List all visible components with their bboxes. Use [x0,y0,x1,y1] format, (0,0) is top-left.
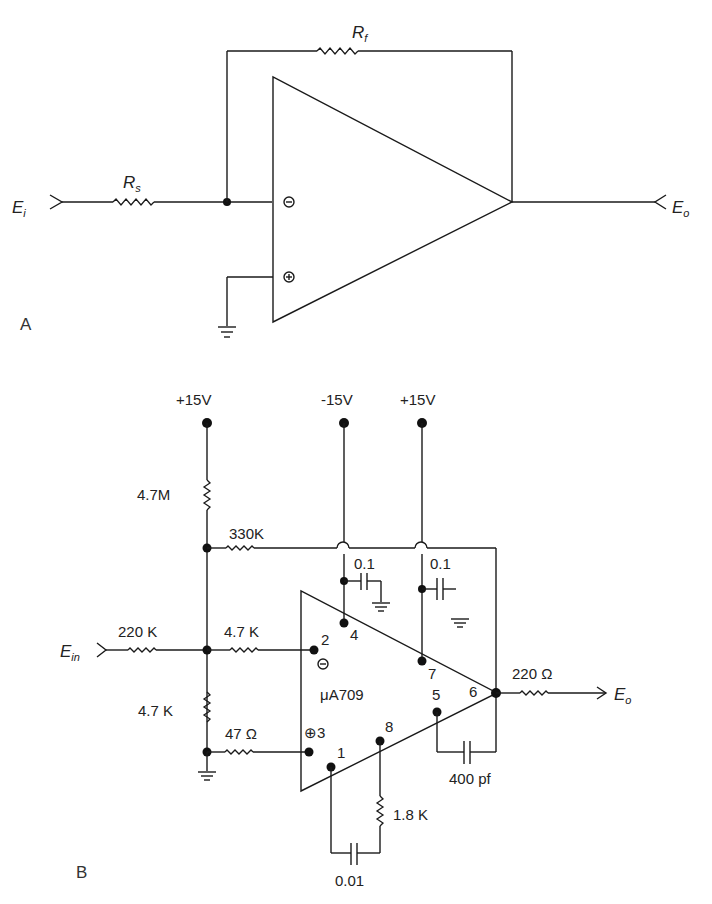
input-arrow-icon [97,643,106,657]
pin4-dot [340,619,349,628]
r-1-8k-label: 1.8 K [393,806,428,823]
pin3-dot [305,748,314,757]
pin6-label: 6 [469,683,477,700]
rf-label: Rf [352,23,368,44]
r-4-7k-shunt-label: 4.7 K [138,702,173,719]
figure-b: +15V -15V +15V 4.7M 330K [60,391,631,889]
resistor-1-8k [377,796,383,826]
supply-neg-label: -15V [321,391,353,408]
pin2-label: 2 [321,631,329,648]
ground-icon [451,619,469,627]
input-label-ein: Ein [60,642,80,663]
pin7-label: 7 [428,665,436,682]
pin8-label: 8 [385,718,393,735]
ground-icon [198,772,216,780]
output-label-eo: Eo [672,198,689,219]
input-arrow-icon [50,195,62,209]
c-pos-label: 0.1 [430,555,451,572]
resistor-4-7m [204,480,210,510]
circuit-diagram: Ei Eo Rs Rf A +15V -15V +15V 4.7M 330K [0,0,712,904]
resistor-rf [317,48,358,54]
r-330k-label: 330K [229,525,264,542]
pin7-dot [418,657,427,666]
pin1-label: 1 [337,744,345,761]
pin2-dot [310,646,319,655]
supply-pos-label: +15V [400,391,435,408]
opamp-triangle [273,77,512,322]
output-arrow-icon [655,195,666,209]
r-47-label: 47 Ω [225,725,257,742]
c-neg-label: 0.1 [354,555,375,572]
resistor-4-7k-series [230,648,258,652]
resistor-rs [113,199,154,205]
ground-icon [372,603,390,611]
panel-label-a: A [20,315,32,334]
panel-label-b: B [76,863,87,882]
chip-label: μA709 [320,686,364,703]
rs-label: Rs [123,173,141,194]
supply-left-label: +15V [176,391,211,408]
resistor-220k [128,648,156,652]
pin4-label: 4 [350,626,358,643]
resistor-47 [225,750,253,754]
c-400pf-label: 400 pf [449,770,492,787]
r-220-ohm-label: 220 Ω [512,665,552,682]
pin5-label: 5 [432,686,440,703]
pin3-label: ⊕3 [304,724,325,741]
input-label-ei: Ei [12,198,26,219]
output-label-eo: Eo [614,685,631,706]
ground-icon [218,327,236,337]
c-001-label: 0.01 [335,872,364,889]
r-4-7k-series-label: 4.7 K [224,623,259,640]
figure-a: Ei Eo Rs Rf A [12,23,689,337]
resistor-330k [226,546,254,550]
r-4-7m-label: 4.7M [137,486,170,503]
r-220k-label: 220 K [118,623,157,640]
resistor-220-ohm [520,691,548,695]
